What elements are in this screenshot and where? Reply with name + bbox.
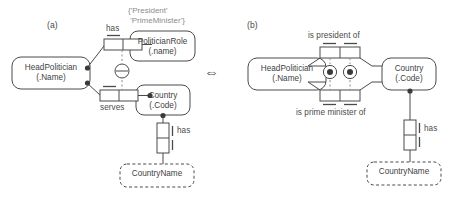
- panel-a-entity-country-ref: (.Code): [136, 101, 190, 111]
- panel-b-entity-country-name: Country: [382, 64, 436, 74]
- panel-a-role-value-annotation-line1: {'President': [128, 6, 168, 16]
- panel-b-entity-headpolitician-ref: (.Name): [248, 74, 326, 84]
- panel-b-predicate-president-label: is president of: [308, 31, 360, 41]
- b-predicate-has-box: [404, 88, 420, 162]
- panel-a-entity-politicianrole-name: PoliticianRole: [130, 37, 195, 47]
- panel-a-value-countryname-label: CountryName: [120, 169, 194, 179]
- panel-b-tag: (b): [247, 20, 258, 30]
- panel-a-role-value-annotation-line2: 'PrimeMinister'}: [128, 16, 185, 26]
- panel-a-predicate-has-bottom-label: has: [177, 126, 190, 136]
- panel-a-entity-headpolitician-name: HeadPolitician: [12, 63, 90, 73]
- panel-b-entity-headpolitician-name: HeadPolitician: [248, 64, 326, 74]
- panel-b-predicate-primeminister-label: is prime minister of: [296, 108, 366, 118]
- panel-a-entity-headpolitician-ref: (.Name): [12, 73, 90, 83]
- a-predicate-serves-box: [100, 87, 138, 102]
- panel-a-predicate-has-top-label: has: [106, 24, 119, 34]
- panel-b-value-countryname-label: CountryName: [367, 167, 441, 177]
- equivalence-symbol: ⇔: [204, 64, 219, 79]
- a-exclusion-constraint: [115, 50, 129, 90]
- panel-a-tag: (a): [47, 20, 58, 30]
- diagram-canvas: .s { fill:none; stroke:#4a4a4a; stroke-w…: [0, 0, 457, 202]
- b-predicate-primeminister-box: [308, 82, 382, 105]
- a-predicate-has-bottom-box: [157, 113, 173, 164]
- b-predicate-president-box: [308, 44, 382, 67]
- panel-b-entity-country-ref: (.Code): [382, 74, 436, 84]
- panel-a-entity-politicianrole-ref: (.name): [130, 47, 195, 57]
- b-constraint-ring-right: [343, 58, 356, 90]
- panel-a-entity-country-name: Country: [136, 91, 190, 101]
- panel-a-predicate-serves-label: serves: [100, 103, 124, 113]
- panel-b-predicate-has-label: has: [424, 124, 437, 134]
